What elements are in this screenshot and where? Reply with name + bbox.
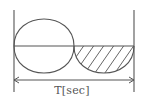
left-lobe-upper-arc bbox=[14, 19, 74, 46]
period-label: T[sec] bbox=[40, 84, 104, 97]
hatched-region bbox=[60, 44, 142, 80]
left-lobe-lower-arc bbox=[14, 46, 74, 73]
